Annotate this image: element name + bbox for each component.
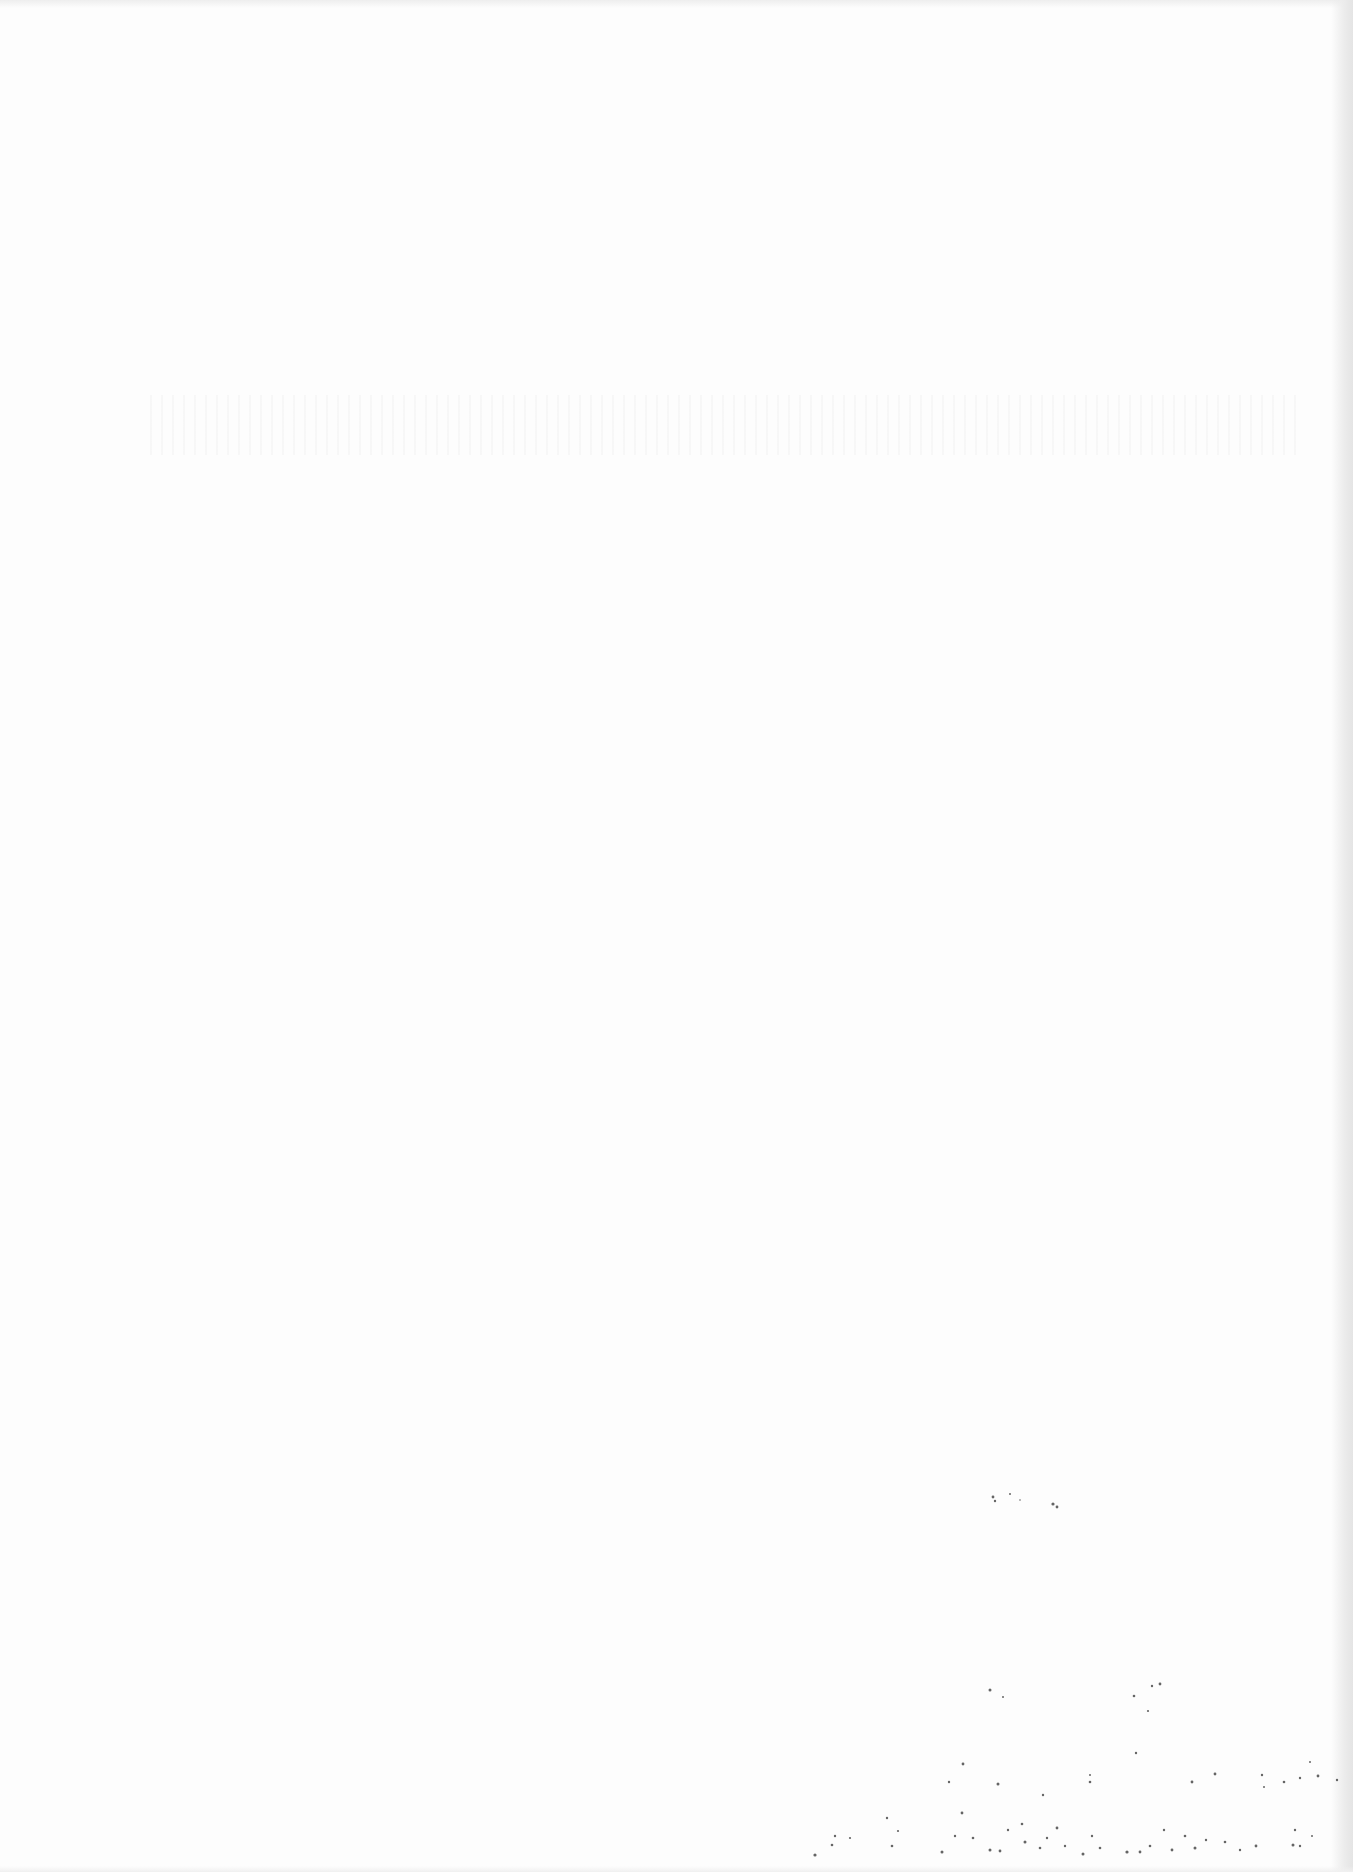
scanned-page (0, 0, 1353, 1872)
degraded-handwriting-marks (0, 0, 1353, 1872)
